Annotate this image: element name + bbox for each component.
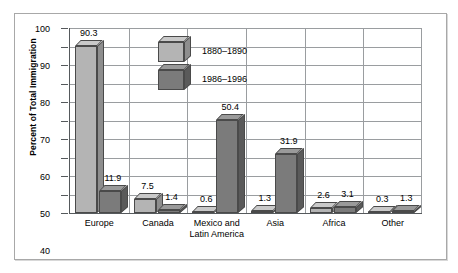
y-tick: 90	[61, 47, 68, 48]
y-tick: 70	[61, 84, 68, 85]
bar-value-label: 1.4	[165, 192, 178, 202]
bar-front-face	[158, 210, 180, 213]
y-tick-label: 50	[20, 209, 50, 219]
bar	[192, 212, 214, 214]
legend-label: 1986–1996	[202, 74, 247, 84]
bar	[75, 46, 97, 213]
bar	[216, 120, 238, 213]
legend-swatch-icon	[158, 70, 184, 90]
x-axis-label: Mexico andLatin America	[187, 218, 246, 240]
y-tick: 0	[61, 213, 68, 214]
bar	[251, 211, 273, 213]
bar-front-face	[334, 207, 356, 213]
y-tick-label: 70	[20, 135, 50, 145]
y-tick: 100	[61, 28, 68, 29]
x-axis-label-line: Canada	[129, 218, 188, 229]
legend-label: 1880–1890	[202, 46, 247, 56]
bar-value-label: 1.3	[259, 193, 272, 203]
x-axis-label-line: Europe	[70, 218, 129, 229]
legend-swatch-icon	[158, 42, 184, 62]
bar	[368, 212, 390, 214]
bar-value-label: 31.9	[280, 136, 298, 146]
bar	[334, 207, 356, 213]
x-axis-label: Africa	[305, 218, 364, 229]
y-tick-label: 80	[20, 98, 50, 108]
chart-screenshot: Percent of Total Immigration 10090807060…	[0, 0, 458, 273]
category-separator	[129, 28, 130, 213]
x-axis-label: Asia	[246, 218, 305, 229]
legend-swatch-front	[158, 70, 184, 90]
bar-value-label: 0.6	[200, 194, 213, 204]
x-axis-label-line: Asia	[246, 218, 305, 229]
bar-value-label: 7.5	[141, 181, 154, 191]
y-tick-label: 40	[20, 246, 50, 256]
category-separator	[305, 28, 306, 213]
x-axis-label-line: Other	[363, 218, 422, 229]
bar-side-face	[238, 114, 245, 213]
category-separator	[363, 28, 364, 213]
y-tick-label: 60	[20, 172, 50, 182]
y-tick: 40	[61, 139, 68, 140]
x-axis-label: Canada	[129, 218, 188, 229]
bar-value-label: 0.3	[376, 194, 389, 204]
bar	[99, 191, 121, 213]
bar-front-face	[310, 208, 332, 213]
y-tick: 60	[61, 102, 68, 103]
x-axis-label: Europe	[70, 218, 129, 229]
x-axis-label-line: Mexico and	[187, 218, 246, 229]
chart-frame: Percent of Total Immigration 10090807060…	[14, 13, 447, 260]
bar	[158, 210, 180, 213]
bar-value-label: 2.6	[317, 190, 330, 200]
y-tick: 80	[61, 65, 68, 66]
bar-front-face	[216, 120, 238, 213]
bar-front-face	[75, 46, 97, 213]
plot-area: 1009080706050403020100 90.311.97.51.40.6…	[69, 28, 422, 214]
x-axis-label-line: Africa	[305, 218, 364, 229]
bar	[392, 211, 414, 213]
bar-value-label: 50.4	[221, 102, 239, 112]
x-axis-label: Other	[363, 218, 422, 229]
bar	[310, 208, 332, 213]
bar-side-face	[297, 148, 304, 213]
y-tick: 20	[61, 176, 68, 177]
y-tick-label: 90	[20, 61, 50, 71]
bar-value-label: 11.9	[104, 173, 121, 183]
bar	[134, 199, 156, 213]
bar-front-face	[99, 191, 121, 213]
bar-value-label: 3.1	[341, 189, 354, 199]
y-tick: 30	[61, 158, 68, 159]
y-tick: 50	[61, 121, 68, 122]
x-axis-label-line: Latin America	[187, 229, 246, 240]
legend-swatch-front	[158, 42, 184, 62]
y-tick: 10	[61, 195, 68, 196]
bar	[275, 154, 297, 213]
bar-front-face	[134, 199, 156, 213]
bar-value-label: 1.3	[400, 193, 413, 203]
bar-front-face	[275, 154, 297, 213]
y-axis-title: Percent of Total Immigration	[28, 17, 38, 177]
bar-value-label: 90.3	[80, 28, 98, 38]
y-tick-label: 100	[20, 24, 50, 34]
